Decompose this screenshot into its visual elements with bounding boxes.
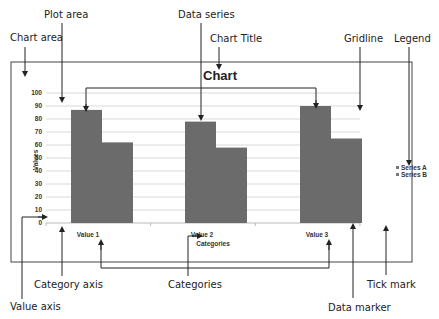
callout-chart-area: Chart area [10,32,63,43]
callout-category-axis: Category axis [34,279,103,290]
bar-series-a [71,110,102,223]
legend-label: Series B [401,171,427,178]
category-label: Value 3 [306,231,329,238]
y-tick-label: 100 [31,89,42,96]
callout-data-marker: Data marker [328,302,392,313]
bar-series-a [300,106,331,223]
y-tick-label: 10 [35,206,43,213]
callout-plot-area: Plot area [44,9,88,20]
value-axis-title: Values [32,149,39,170]
chart-title: Chart [203,68,238,83]
category-label: Value 1 [77,231,100,238]
bars [71,106,362,223]
y-tick-label: 70 [35,128,43,135]
categories-center-leader [188,236,196,276]
chart-anatomy-diagram: Chart 0102030405060708090100 Value 1Valu… [0,0,439,319]
category-labels: Value 1Value 2Value 3 [77,231,329,238]
legend-swatch [396,166,399,169]
callout-value-axis: Value axis [10,301,61,312]
callout-tick-mark: Tick mark [366,279,416,290]
y-tick-label: 60 [35,141,43,148]
bar-series-b [216,148,247,223]
callout-chart-title: Chart Title [210,33,262,44]
category-axis-title: Categories [196,240,230,248]
category-label: Value 2 [191,231,214,238]
bar-series-a [185,122,216,223]
callout-legend: Legend [394,33,431,44]
y-tick-label: 30 [35,180,43,187]
callout-gridline: Gridline [344,33,383,44]
legend-swatch [396,173,399,176]
callout-categories: Categories [168,279,222,290]
y-tick-label: 80 [35,115,43,122]
categories-bracket [101,244,329,268]
legend-label: Series A [401,164,427,171]
bar-series-b [331,139,362,224]
y-tick-label: 0 [38,219,42,226]
y-tick-label: 90 [35,102,43,109]
callout-data-series: Data series [178,9,235,20]
legend: Series ASeries B [396,164,427,178]
y-tick-label: 20 [35,193,43,200]
bar-series-b [102,142,133,223]
